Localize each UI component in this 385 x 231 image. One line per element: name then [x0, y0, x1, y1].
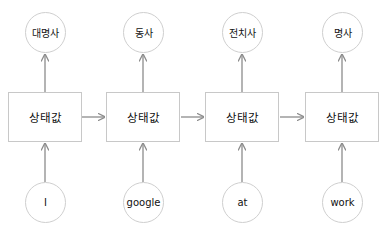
state-label: 상태값: [226, 109, 259, 125]
state-box-1: 상태값: [8, 92, 82, 142]
state-box-3: 상태값: [205, 92, 279, 142]
state-label: 상태값: [29, 109, 62, 125]
input-label: at: [237, 197, 247, 208]
state-box-2: 상태값: [106, 92, 180, 142]
input-node-4: work: [322, 182, 363, 223]
output-label: 명사: [334, 25, 352, 40]
input-node-2: google: [123, 182, 164, 223]
output-node-4: 명사: [322, 12, 363, 53]
state-label: 상태값: [326, 109, 359, 125]
state-box-4: 상태값: [305, 92, 379, 142]
output-label: 동사: [135, 25, 153, 40]
input-node-1: I: [25, 182, 66, 223]
state-label: 상태값: [127, 109, 160, 125]
output-label: 대명사: [32, 25, 59, 40]
output-label: 전치사: [229, 25, 256, 40]
input-label: I: [44, 197, 47, 208]
input-node-3: at: [222, 182, 263, 223]
output-node-3: 전치사: [222, 12, 263, 53]
input-label: google: [127, 197, 161, 208]
output-node-2: 동사: [123, 12, 164, 53]
input-label: work: [330, 197, 354, 208]
output-node-1: 대명사: [25, 12, 66, 53]
